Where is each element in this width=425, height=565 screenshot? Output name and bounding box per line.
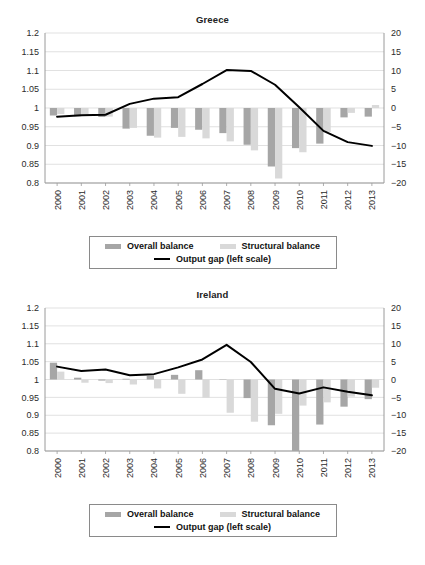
x-axis-category-label: 2010 — [295, 458, 305, 478]
figure-root: Greece 1.2201.15151.1101.055100.95−50.9−… — [0, 0, 425, 565]
left-axis-tick-label: 1.05 — [21, 84, 39, 94]
bar — [50, 108, 57, 116]
x-axis-category-label: 2009 — [271, 458, 281, 478]
x-axis-category-label: 2008 — [246, 458, 256, 478]
left-axis-tick-label: 1.2 — [26, 28, 39, 38]
right-axis-tick-label: −20 — [391, 178, 406, 188]
x-axis-category-label: 2009 — [271, 190, 281, 210]
x-axis-category-label: 2011 — [319, 458, 329, 477]
bar — [122, 379, 129, 380]
legend-item-structural-balance: Structural balance — [220, 241, 321, 251]
legend-item-overall-balance: Overall balance — [105, 509, 194, 519]
legend-swatch-overall-balance — [105, 512, 121, 517]
left-axis-tick-label: 1.15 — [21, 321, 39, 331]
bar — [316, 380, 323, 425]
legend-swatch-output-gap — [154, 526, 170, 529]
bar — [147, 108, 154, 136]
legend-greece: Overall balance Structural balance Outpu… — [89, 236, 337, 269]
right-axis-tick-label: −5 — [391, 122, 401, 132]
right-axis-tick-label: −15 — [391, 159, 406, 169]
x-axis-category-label: 2004 — [149, 190, 159, 210]
right-axis-tick-label: 15 — [391, 47, 401, 57]
output-gap-line — [57, 345, 372, 395]
right-axis-tick-label: 10 — [391, 339, 401, 349]
right-axis-tick-label: −5 — [391, 393, 401, 403]
x-axis-category-label: 2007 — [222, 458, 232, 478]
x-axis-category-label: 2000 — [53, 190, 63, 210]
x-axis-category-label: 2005 — [174, 190, 184, 210]
x-axis-category-label: 2011 — [319, 190, 329, 209]
x-axis-category-label: 2013 — [367, 190, 377, 210]
x-axis-category-label: 2006 — [198, 458, 208, 478]
x-axis-category-label: 2001 — [77, 190, 87, 210]
bar — [219, 108, 226, 133]
left-axis-tick-label: 0.8 — [26, 446, 39, 456]
chart-panel-greece: Greece 1.2201.15151.1101.055100.95−50.9−… — [0, 0, 425, 283]
legend-item-overall-balance: Overall balance — [105, 241, 194, 251]
legend-label-overall-balance: Overall balance — [127, 509, 194, 519]
bar — [81, 380, 88, 383]
right-axis-tick-label: −10 — [391, 141, 406, 151]
bar — [57, 108, 64, 114]
legend-swatch-overall-balance — [105, 244, 121, 249]
legend-label-structural-balance: Structural balance — [242, 241, 321, 251]
right-axis-tick-label: 10 — [391, 66, 401, 76]
bar — [50, 363, 57, 380]
x-axis-category-label: 2008 — [246, 190, 256, 210]
bar — [348, 108, 355, 113]
bar — [81, 108, 88, 115]
left-axis-tick-label: 0.95 — [21, 122, 39, 132]
left-axis-tick-label: 1.2 — [26, 303, 39, 313]
x-axis-category-label: 2002 — [101, 190, 111, 210]
right-axis-tick-label: −20 — [391, 446, 406, 456]
x-axis-category-label: 2006 — [198, 190, 208, 210]
bar — [195, 370, 202, 379]
chart-svg-ireland: 1.2201.15151.1101.055100.95−50.9−100.85−… — [0, 300, 425, 498]
x-axis-category-label: 2005 — [174, 458, 184, 478]
bar — [147, 376, 154, 380]
bar — [268, 108, 275, 167]
bar — [74, 378, 81, 380]
bar — [106, 380, 113, 384]
bar — [195, 108, 202, 130]
bar — [130, 380, 137, 385]
plot-area-ireland: 1.2201.15151.1101.055100.95−50.9−100.85−… — [0, 300, 425, 498]
legend-swatch-structural-balance — [220, 244, 236, 249]
bar — [202, 108, 209, 138]
x-axis-category-label: 2010 — [295, 190, 305, 210]
plot-area-greece: 1.2201.15151.1101.055100.95−50.9−100.85−… — [0, 25, 425, 230]
bar — [292, 380, 299, 452]
bar — [171, 108, 178, 128]
bar — [365, 108, 372, 117]
bar — [154, 108, 161, 138]
bar — [323, 380, 330, 403]
bar — [340, 108, 347, 117]
bar — [57, 372, 64, 380]
legend-label-structural-balance: Structural balance — [242, 509, 321, 519]
bar — [130, 108, 137, 128]
legend-swatch-output-gap — [154, 258, 170, 261]
bar — [340, 380, 347, 407]
left-axis-tick-label: 1 — [34, 103, 39, 113]
left-axis-tick-label: 0.8 — [26, 178, 39, 188]
x-axis-category-label: 2003 — [125, 458, 135, 478]
bar — [372, 105, 379, 108]
chart-panel-ireland: Ireland 1.2201.15151.1101.055100.95−50.9… — [0, 283, 425, 565]
legend-item-output-gap: Output gap (left scale) — [154, 254, 271, 264]
bar — [365, 380, 372, 400]
bar — [244, 108, 251, 145]
left-axis-tick-label: 1 — [34, 375, 39, 385]
right-axis-tick-label: 15 — [391, 321, 401, 331]
legend-label-output-gap: Output gap (left scale) — [176, 254, 271, 264]
chart-title-greece: Greece — [0, 0, 425, 25]
bar — [227, 108, 234, 141]
bar — [178, 108, 185, 137]
chart-svg-greece: 1.2201.15151.1101.055100.95−50.9−100.85−… — [0, 25, 425, 230]
x-axis-category-label: 2002 — [101, 458, 111, 478]
bar — [323, 108, 330, 132]
bar — [372, 380, 379, 388]
bar — [202, 380, 209, 398]
right-axis-tick-label: 20 — [391, 28, 401, 38]
legend-ireland: Overall balance Structural balance Outpu… — [89, 504, 337, 537]
legend-swatch-structural-balance — [220, 512, 236, 517]
